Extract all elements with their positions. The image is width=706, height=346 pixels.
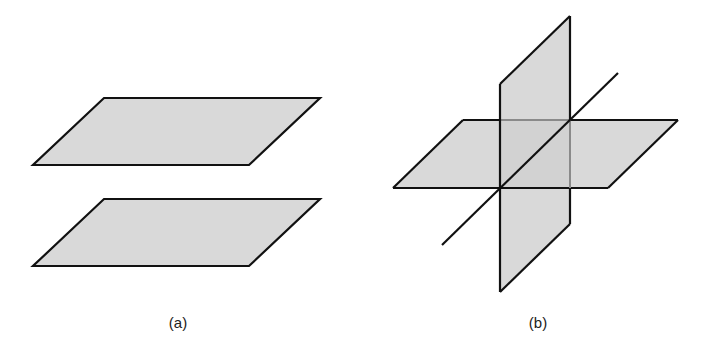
upper-plane (33, 98, 320, 165)
figure-b (393, 16, 678, 292)
figure-a (33, 98, 320, 266)
lower-plane (33, 199, 320, 266)
diagram-canvas (0, 0, 706, 346)
figure-a-label: (a) (169, 314, 187, 331)
figure-b-label: (b) (529, 314, 547, 331)
